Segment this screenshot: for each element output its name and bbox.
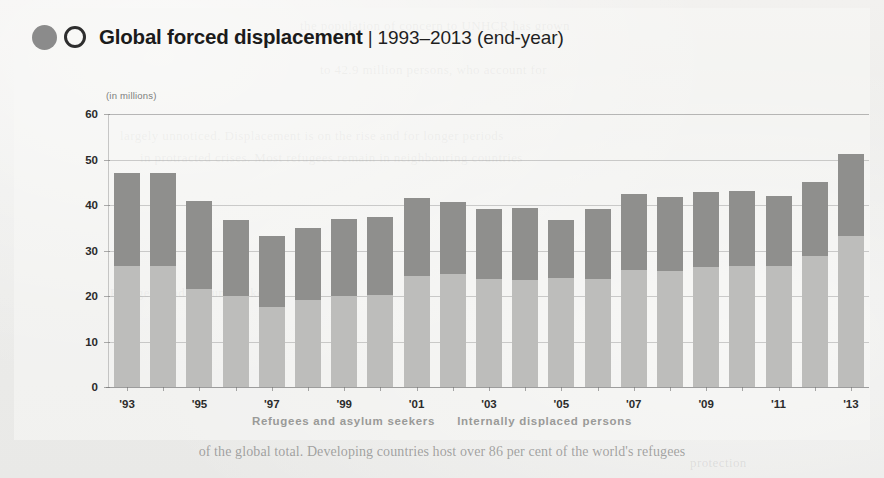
bar-segment-internally-displaced[interactable] (512, 280, 538, 387)
bar-group[interactable] (621, 194, 647, 387)
bar-segment-refugees[interactable] (621, 194, 647, 270)
bar-group[interactable] (585, 209, 611, 387)
chart-legend: Refugees and asylum seekersInternally di… (14, 415, 870, 427)
bar-segment-refugees[interactable] (331, 219, 357, 296)
bar-group[interactable] (295, 228, 321, 387)
bar-segment-internally-displaced[interactable] (150, 266, 176, 387)
bar-group[interactable] (657, 197, 683, 387)
bar-segment-refugees[interactable] (512, 208, 538, 279)
x-tick-label: '07 (626, 398, 642, 410)
x-tick-mark (127, 387, 128, 391)
bar-group[interactable] (367, 217, 393, 387)
title-separator: | (368, 27, 373, 49)
bar-segment-internally-displaced[interactable] (367, 295, 393, 387)
bar-segment-internally-displaced[interactable] (331, 296, 357, 387)
y-tick-mark (104, 205, 110, 206)
bar-segment-refugees[interactable] (186, 201, 212, 288)
bar-group[interactable] (150, 173, 176, 387)
bar-group[interactable] (186, 201, 212, 387)
x-tick-label: '09 (698, 398, 714, 410)
x-tick-mark (163, 387, 164, 391)
legend-item-label: Refugees and asylum seekers (252, 415, 435, 427)
x-axis-baseline (106, 387, 869, 388)
bar-segment-refugees[interactable] (114, 173, 140, 265)
bar-segment-refugees[interactable] (729, 191, 755, 267)
x-tick-mark (815, 387, 816, 391)
y-tick-label: 20 (72, 290, 98, 302)
y-tick-mark (104, 251, 110, 252)
bar-segment-refugees[interactable] (223, 220, 249, 295)
y-axis-units-label: (in millions) (106, 90, 157, 101)
bar-group[interactable] (223, 220, 249, 387)
bar-segment-refugees[interactable] (440, 202, 466, 274)
bar-segment-refugees[interactable] (766, 196, 792, 266)
bar-segment-refugees[interactable] (476, 209, 502, 279)
bar-segment-internally-displaced[interactable] (223, 296, 249, 387)
bar-segment-refugees[interactable] (657, 197, 683, 271)
bar-segment-refugees[interactable] (295, 228, 321, 299)
bar-segment-internally-displaced[interactable] (621, 270, 647, 387)
bar-segment-refugees[interactable] (259, 236, 285, 307)
y-tick-label: 10 (72, 336, 98, 348)
plot-area: '93'95'97'99'01'03'05'07'09'11'13 (109, 114, 869, 387)
page-title: Global forced displacement | 1993–2013 (… (99, 25, 564, 49)
x-tick-mark (742, 387, 743, 391)
bar-group[interactable] (802, 182, 828, 387)
bar-group[interactable] (838, 154, 864, 387)
chart-card: Global forced displacement | 1993–2013 (… (14, 8, 870, 440)
bar-segment-refugees[interactable] (404, 198, 430, 276)
x-tick-mark (561, 387, 562, 391)
bar-segment-refugees[interactable] (150, 173, 176, 265)
chart-title: Global forced displacement (99, 25, 363, 49)
legend-item[interactable]: Internally displaced persons (457, 415, 632, 427)
bar-segment-internally-displaced[interactable] (259, 307, 285, 387)
bar-segment-internally-displaced[interactable] (766, 266, 792, 387)
plot-top-border (109, 114, 869, 115)
bar-segment-internally-displaced[interactable] (657, 271, 683, 387)
bar-segment-refugees[interactable] (367, 217, 393, 295)
bar-segment-internally-displaced[interactable] (838, 236, 864, 388)
x-tick-mark (199, 387, 200, 391)
bar-segment-refugees[interactable] (585, 209, 611, 280)
bar-segment-internally-displaced[interactable] (295, 300, 321, 387)
legend-item[interactable]: Refugees and asylum seekers (252, 415, 435, 427)
bar-segment-internally-displaced[interactable] (476, 279, 502, 387)
bar-segment-internally-displaced[interactable] (440, 274, 466, 387)
y-tick-mark (104, 387, 110, 388)
bar-group[interactable] (114, 173, 140, 387)
bar-segment-internally-displaced[interactable] (729, 266, 755, 387)
bar-group[interactable] (404, 198, 430, 387)
y-tick-label: 50 (72, 154, 98, 166)
bar-segment-refugees[interactable] (548, 220, 574, 278)
x-tick-label: '03 (481, 398, 497, 410)
bar-segment-internally-displaced[interactable] (404, 276, 430, 387)
bar-segment-refugees[interactable] (693, 192, 719, 268)
bar-segment-internally-displaced[interactable] (186, 289, 212, 387)
x-tick-mark (598, 387, 599, 391)
bar-segment-refugees[interactable] (802, 182, 828, 256)
bar-group[interactable] (693, 192, 719, 387)
chart-header: Global forced displacement | 1993–2013 (… (32, 20, 564, 54)
bar-segment-internally-displaced[interactable] (585, 279, 611, 387)
bar-group[interactable] (331, 219, 357, 387)
bar-segment-internally-displaced[interactable] (693, 267, 719, 387)
bar-segment-internally-displaced[interactable] (114, 266, 140, 387)
y-tick-mark (104, 296, 110, 297)
x-tick-label: '11 (771, 398, 786, 410)
bar-segment-internally-displaced[interactable] (548, 278, 574, 387)
chart-figure: the population of concern to UNHCR has g… (0, 0, 884, 478)
bar-group[interactable] (729, 191, 755, 387)
x-tick-mark (670, 387, 671, 391)
bar-group[interactable] (259, 236, 285, 388)
bar-group[interactable] (766, 196, 792, 387)
bar-segment-internally-displaced[interactable] (802, 256, 828, 387)
y-tick-label: 60 (72, 108, 98, 120)
bar-group[interactable] (440, 202, 466, 387)
bar-group[interactable] (476, 209, 502, 387)
x-tick-label: '93 (119, 398, 135, 410)
filled-circle-icon (32, 25, 57, 50)
bar-segment-refugees[interactable] (838, 154, 864, 235)
bar-group[interactable] (512, 208, 538, 387)
bar-group[interactable] (548, 220, 574, 387)
y-tick-mark (104, 160, 110, 161)
